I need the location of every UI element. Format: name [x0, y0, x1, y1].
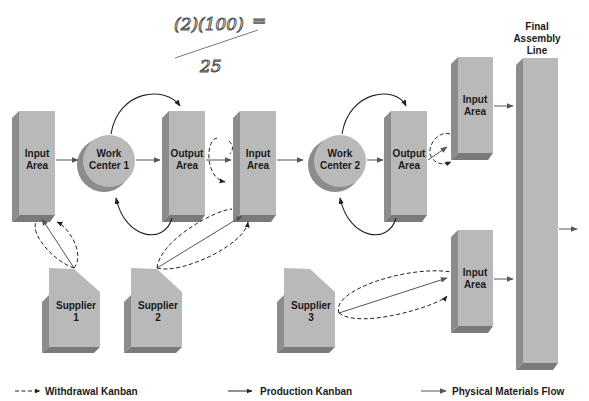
- final-assembly-line: Final Assembly Line: [513, 21, 561, 370]
- supplier-2: Supplier 2: [124, 268, 182, 353]
- svg-text:Supplier: Supplier: [56, 300, 96, 311]
- svg-text:Work: Work: [97, 148, 122, 159]
- supplier-1: Supplier 1: [42, 268, 100, 353]
- svg-text:Assembly: Assembly: [513, 33, 561, 44]
- svg-text:Input: Input: [25, 148, 50, 159]
- output-area-1: Output Area: [162, 111, 205, 222]
- legend: Withdrawal Kanban Production Kanban Phys…: [15, 386, 564, 397]
- handwritten-note: (2)(100) = 25: [174, 10, 266, 76]
- output-area-2: Output Area: [384, 111, 427, 222]
- svg-text:3: 3: [308, 312, 314, 323]
- svg-text:=: =: [252, 10, 266, 30]
- svg-text:Area: Area: [464, 279, 487, 290]
- svg-text:Area: Area: [398, 160, 421, 171]
- svg-text:Supplier: Supplier: [291, 300, 331, 311]
- svg-text:Physical Materials Flow: Physical Materials Flow: [452, 386, 564, 397]
- svg-text:Area: Area: [464, 106, 487, 117]
- svg-text:Area: Area: [247, 160, 270, 171]
- svg-text:Input: Input: [463, 267, 488, 278]
- legend-physical-materials-flow: Physical Materials Flow: [421, 386, 564, 397]
- legend-production-kanban: Production Kanban: [228, 386, 352, 397]
- svg-text:Production Kanban: Production Kanban: [260, 386, 352, 397]
- svg-text:Center 1: Center 1: [89, 160, 129, 171]
- work-center-1: Work Center 1: [77, 135, 135, 192]
- svg-text:Line: Line: [527, 45, 548, 56]
- svg-text:Final: Final: [525, 21, 549, 32]
- svg-text:Withdrawal Kanban: Withdrawal Kanban: [45, 386, 138, 397]
- input-area-3: Input Area: [451, 57, 493, 160]
- input-area-4: Input Area: [451, 230, 493, 333]
- svg-text:Output: Output: [393, 148, 426, 159]
- svg-text:2: 2: [155, 312, 161, 323]
- svg-text:Center 2: Center 2: [320, 160, 360, 171]
- svg-text:25: 25: [199, 56, 222, 76]
- svg-text:Input: Input: [463, 94, 488, 105]
- supplier-3: Supplier 3: [277, 268, 335, 353]
- input-area-1: Input Area: [12, 111, 55, 222]
- svg-text:Output: Output: [171, 148, 204, 159]
- svg-text:Area: Area: [26, 160, 49, 171]
- input-area-2: Input Area: [233, 111, 276, 222]
- svg-text:Supplier: Supplier: [138, 300, 178, 311]
- svg-text:Area: Area: [176, 160, 199, 171]
- work-center-2: Work Center 2: [308, 135, 366, 192]
- svg-text:1: 1: [73, 312, 79, 323]
- svg-text:Work: Work: [328, 148, 353, 159]
- kanban-diagram: (2)(100) = 25 Input Area Work Center 1 O…: [0, 0, 589, 401]
- svg-text:Input: Input: [246, 148, 271, 159]
- legend-withdrawal-kanban: Withdrawal Kanban: [15, 386, 138, 397]
- svg-text:(2)(100): (2)(100): [174, 14, 244, 34]
